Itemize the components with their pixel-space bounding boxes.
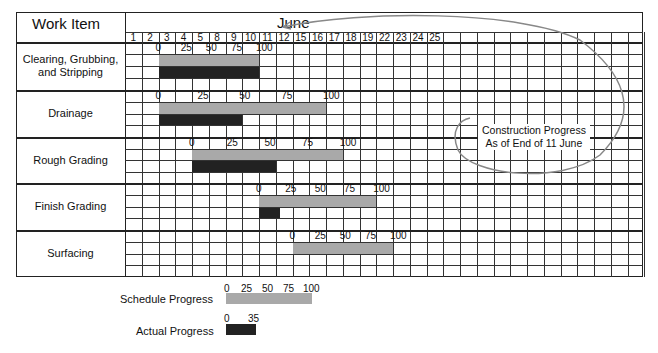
- legend-actual-label: Actual Progress: [136, 325, 214, 337]
- legend-schedule-label: Schedule Progress: [120, 293, 213, 305]
- note-line-1: Construction Progress: [482, 124, 586, 137]
- tick: 0: [224, 313, 230, 324]
- progress-note: Construction Progress As of End of 11 Ju…: [478, 124, 590, 150]
- tick: 35: [248, 313, 259, 324]
- legend-actual-bar: [226, 324, 256, 335]
- note-line-2: As of End of 11 June: [482, 137, 586, 150]
- legend-schedule-bar: [226, 293, 312, 304]
- progress-callout-curve: [0, 0, 658, 353]
